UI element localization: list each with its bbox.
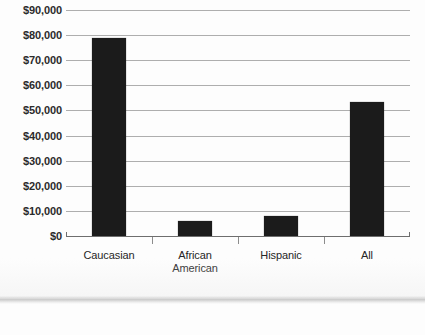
y-axis-tick-label: $90,000 (0, 5, 62, 16)
x-axis-tick-label: Caucasian (66, 249, 152, 262)
x-axis-right-endcap (409, 232, 410, 237)
y-axis-tick-label: $30,000 (0, 156, 62, 167)
bar (350, 102, 384, 236)
x-axis-tick-label-line: American (152, 262, 238, 275)
x-axis-tick-label-line: All (324, 249, 410, 262)
y-axis-tick-label: $40,000 (0, 131, 62, 142)
x-axis-tick (238, 237, 239, 244)
gridline (66, 35, 410, 36)
x-axis-tick-label-line: Hispanic (238, 249, 324, 262)
x-axis-tick-label: Hispanic (238, 249, 324, 262)
x-axis-tick-label: AfricanAmerican (152, 249, 238, 274)
bar-chart-figure: $90,000$80,000$70,000$60,000$50,000$40,0… (0, 0, 425, 335)
gridline (66, 10, 410, 11)
y-axis-tick-label: $70,000 (0, 55, 62, 66)
x-axis-left-endcap (66, 232, 67, 237)
x-axis-tick (152, 237, 153, 244)
y-axis-tick-label: $0 (0, 231, 62, 242)
x-axis-tick-label-line: Caucasian (66, 249, 152, 262)
y-axis-tick-label: $80,000 (0, 30, 62, 41)
x-axis-tick-label: All (324, 249, 410, 262)
x-axis-tick (324, 237, 325, 244)
y-axis-tick-label: $50,000 (0, 105, 62, 116)
bar (264, 216, 298, 236)
bar (92, 38, 126, 236)
scan-smudge-artifact (0, 296, 425, 304)
y-axis-tick-label: $60,000 (0, 80, 62, 91)
x-axis-tick-label-line: African (152, 249, 238, 262)
bar (178, 221, 212, 236)
y-axis-tick-label: $10,000 (0, 206, 62, 217)
y-axis-tick-label: $20,000 (0, 181, 62, 192)
